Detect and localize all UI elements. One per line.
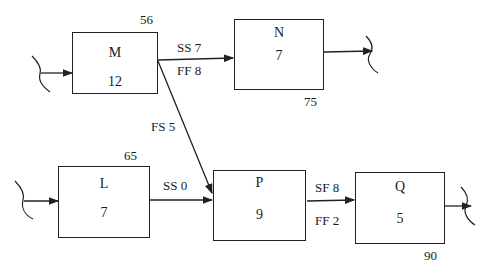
relation-p-q-ff: FF 2 (315, 213, 339, 229)
activity-q-name: Q (356, 179, 444, 195)
activity-n: N 7 (234, 19, 324, 90)
activity-p-duration: 9 (214, 207, 305, 223)
activity-n-name: N (235, 25, 323, 41)
relation-l-p-ss: SS 0 (163, 178, 187, 194)
activity-m: M 12 (72, 32, 158, 94)
arrow-m-to-n (158, 58, 233, 60)
activity-m-note: 56 (140, 12, 153, 28)
activity-l-name: L (59, 176, 149, 192)
activity-p-name: P (214, 175, 305, 191)
end-squiggle-n (366, 36, 378, 73)
activity-n-duration: 7 (235, 48, 323, 64)
start-squiggle-m (32, 56, 50, 92)
activity-q-duration: 5 (356, 211, 444, 227)
activity-m-duration: 12 (73, 74, 157, 90)
relation-m-n-ss: SS 7 (177, 40, 201, 56)
activity-l: L 7 (58, 166, 150, 238)
relation-m-p-fs: FS 5 (151, 119, 175, 135)
activity-n-note: 75 (304, 94, 317, 110)
arrow-p-to-q (307, 200, 354, 201)
relation-m-n-ff: FF 8 (177, 63, 201, 79)
activity-l-note: 65 (124, 148, 137, 164)
activity-q: Q 5 (355, 172, 445, 244)
start-squiggle-l (15, 181, 33, 219)
arrow-out-of-n (324, 51, 372, 52)
relation-p-q-sf: SF 8 (315, 180, 339, 196)
activity-p: P 9 (213, 170, 306, 241)
activity-q-note: 90 (424, 248, 437, 264)
activity-m-name: M (73, 45, 157, 61)
activity-l-duration: 7 (59, 205, 149, 221)
